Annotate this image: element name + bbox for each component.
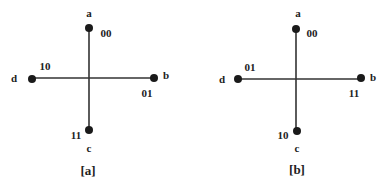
diagram-caption: [b] [289, 163, 305, 176]
node-c-code: 10 [278, 130, 289, 141]
node-d-code: 01 [245, 62, 256, 73]
node-a-dot [85, 24, 93, 32]
node-c-dot [293, 127, 301, 135]
node-b-name: b [163, 70, 169, 81]
node-d-dot [28, 75, 36, 83]
node-d-dot [234, 75, 242, 83]
diagram-canvas [0, 0, 385, 185]
node-b-code: 11 [349, 88, 359, 99]
node-b-dot [150, 74, 158, 82]
diagram-caption: [a] [80, 164, 95, 177]
diagram-a-graph [28, 24, 158, 134]
node-b-dot [357, 74, 365, 82]
node-a-name: a [295, 8, 301, 19]
node-c-code: 11 [71, 130, 81, 141]
node-d-name: d [11, 73, 17, 84]
node-c-dot [85, 126, 93, 134]
diagram-b-graph [234, 25, 365, 135]
node-a-name: a [86, 8, 92, 19]
node-a-code: 00 [307, 28, 318, 39]
node-a-code: 00 [101, 28, 112, 39]
node-a-dot [292, 25, 300, 33]
node-c-name: c [87, 143, 92, 154]
node-b-code: 01 [142, 88, 153, 99]
node-d-code: 10 [40, 61, 51, 72]
node-b-name: b [370, 72, 376, 83]
node-c-name: c [295, 143, 300, 154]
node-d-name: d [219, 74, 225, 85]
